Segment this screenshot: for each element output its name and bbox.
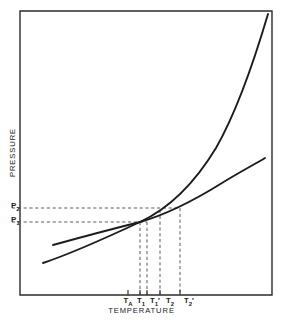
curve-flat <box>53 158 265 245</box>
x-tick-label-ta: TA <box>124 296 133 307</box>
x-tick-label-t2-prime: T2′ <box>184 296 194 307</box>
y-tick-label-p1: P1 <box>11 215 20 226</box>
curve-steep <box>43 14 268 263</box>
plot-canvas <box>0 0 283 325</box>
x-tick-label-t1: T1 <box>137 296 145 307</box>
y-axis-title: PRESSURE <box>8 121 17 185</box>
pressure-temperature-figure: PRESSURE TEMPERATURE P2 P1 TA T1 T1′ T2 … <box>0 0 283 325</box>
x-tick-label-t2: T2 <box>166 296 174 307</box>
y-tick-label-p2: P2 <box>11 201 20 212</box>
plot-frame <box>20 11 272 295</box>
x-axis-title: TEMPERATURE <box>0 306 283 315</box>
x-tick-label-t1-prime: T1′ <box>150 296 160 307</box>
